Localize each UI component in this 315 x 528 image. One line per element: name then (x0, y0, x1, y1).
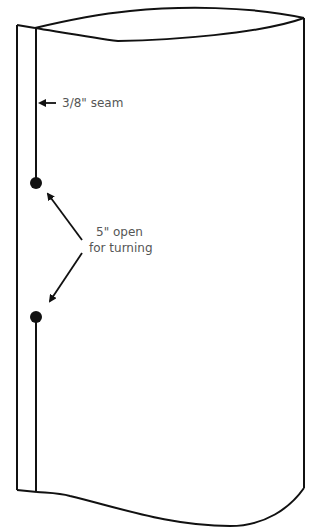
opening-label-line2: for turning (89, 241, 153, 255)
opening-start-dot (30, 177, 42, 189)
seam-label: 3/8" seam (62, 96, 123, 110)
opening-end-dot (30, 311, 42, 323)
tube-top-front-edge (35, 18, 304, 41)
opening-label-line1: 5" open (96, 225, 143, 239)
opening-arrow-down-icon (50, 253, 82, 301)
opening-arrow-up-icon (48, 194, 82, 240)
seam-allowance-bottom (17, 490, 37, 492)
tube-bottom-edge (37, 488, 304, 526)
seam-allowance-top (17, 25, 35, 28)
fabric-tube-diagram: 3/8" seam 5" open for turning (0, 0, 315, 528)
tube-top-back-edge (35, 8, 304, 28)
